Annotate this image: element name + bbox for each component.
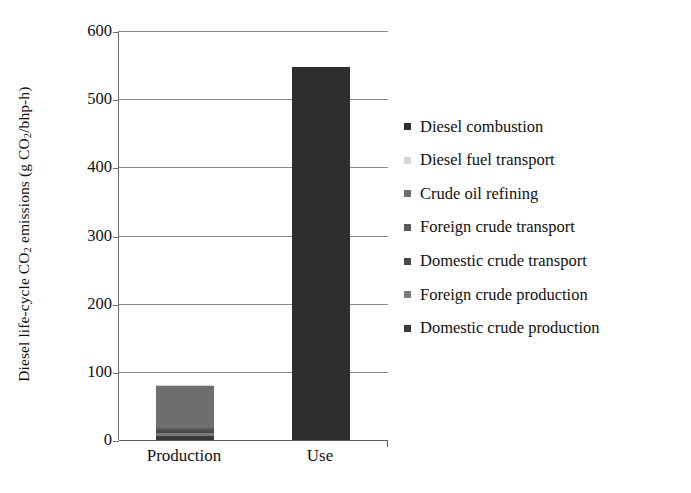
legend-label: Foreign crude production	[420, 287, 588, 304]
y-axis-tick-labels: 0100200300400500600	[56, 31, 112, 440]
y-axis-label-200: 200	[87, 295, 112, 312]
y-axis-label-400: 400	[87, 159, 112, 176]
y-axis-title-mid: emissions (g CO	[15, 138, 32, 247]
legend-item-foreign-crude-transport[interactable]: Foreign crude transport	[404, 211, 684, 245]
y-axis-title-post: /bhp-h)	[15, 87, 32, 133]
legend-label: Domestic crude transport	[420, 253, 587, 270]
legend-swatch-icon	[404, 123, 411, 130]
y-axis-tick-0	[113, 441, 119, 442]
x-axis-end-tick	[387, 440, 388, 447]
y-axis-title: Diesel life-cycle CO2 emissions (g CO2/b…	[15, 24, 33, 444]
legend-swatch-icon	[404, 224, 411, 231]
y-axis-label-0: 0	[104, 432, 112, 449]
legend-item-crude-oil-refining[interactable]: Crude oil refining	[404, 177, 684, 211]
x-axis-tick-labels: ProductionUse	[118, 446, 387, 486]
y-axis-label-500: 500	[87, 91, 112, 108]
y-axis-title-wrap: Diesel life-cycle CO2 emissions (g CO2/b…	[0, 0, 44, 493]
chart-container: Diesel life-cycle CO2 emissions (g CO2/b…	[0, 0, 691, 493]
bar-use[interactable]	[292, 67, 350, 440]
legend-label: Foreign crude transport	[420, 219, 575, 236]
legend-label: Crude oil refining	[420, 186, 538, 203]
y-axis-tick-600	[113, 32, 119, 33]
bar-production[interactable]	[156, 385, 214, 440]
legend-swatch-icon	[404, 291, 411, 298]
legend-item-diesel-fuel-transport[interactable]: Diesel fuel transport	[404, 144, 684, 178]
legend-item-foreign-crude-production[interactable]: Foreign crude production	[404, 278, 684, 312]
y-axis-title-sub-2: 2	[22, 133, 33, 138]
legend-swatch-icon	[404, 190, 411, 197]
bar-segment-diesel-combustion	[292, 67, 350, 440]
legend-label: Diesel fuel transport	[420, 152, 555, 169]
bar-segment-domestic-crude-production	[156, 436, 214, 440]
gridline-0	[119, 440, 388, 441]
y-axis-title-pre: Diesel life-cycle CO	[15, 252, 32, 381]
legend-label: Domestic crude production	[420, 320, 600, 337]
legend-swatch-icon	[404, 258, 411, 265]
x-axis-label-use: Use	[307, 446, 333, 466]
chart-legend: Diesel combustionDiesel fuel transportCr…	[404, 110, 684, 345]
y-axis-label-100: 100	[87, 364, 112, 381]
bar-segment-crude-oil-refining	[156, 386, 214, 428]
y-axis-tick-400	[113, 168, 119, 169]
y-axis-label-600: 600	[87, 23, 112, 40]
legend-swatch-icon	[404, 157, 411, 164]
y-axis-tick-300	[113, 237, 119, 238]
legend-swatch-icon	[404, 325, 411, 332]
y-axis-tick-500	[113, 100, 119, 101]
legend-item-domestic-crude-production[interactable]: Domestic crude production	[404, 312, 684, 346]
legend-label: Diesel combustion	[420, 119, 543, 136]
y-axis-tick-100	[113, 373, 119, 374]
legend-item-diesel-combustion[interactable]: Diesel combustion	[404, 110, 684, 144]
y-axis-tick-200	[113, 305, 119, 306]
plot-area	[118, 31, 387, 440]
x-axis-label-production: Production	[147, 446, 222, 466]
y-axis-title-sub-1: 2	[22, 247, 33, 252]
gridline-600	[119, 31, 388, 32]
legend-item-domestic-crude-transport[interactable]: Domestic crude transport	[404, 244, 684, 278]
y-axis-label-300: 300	[87, 227, 112, 244]
